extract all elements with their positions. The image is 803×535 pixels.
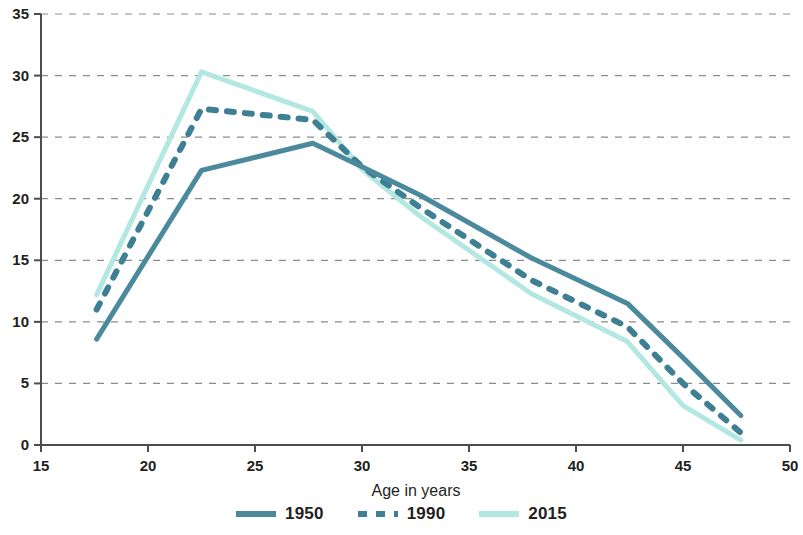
legend-swatch-2015-icon <box>479 511 519 517</box>
data-series-layer <box>97 72 741 440</box>
x-tick-label: 35 <box>461 457 478 474</box>
x-axis-ticks: 1520253035404550 <box>33 445 799 474</box>
y-tick-label: 10 <box>12 313 29 330</box>
x-tick-label: 50 <box>782 457 799 474</box>
y-tick-label: 5 <box>21 374 29 391</box>
y-tick-label: 25 <box>12 128 29 145</box>
series-line-1990 <box>97 109 741 433</box>
series-line-1950 <box>97 143 741 415</box>
x-tick-label: 45 <box>675 457 692 474</box>
line-chart: 05101520253035 1520253035404550 Age in y… <box>0 0 803 535</box>
chart-canvas: 05101520253035 1520253035404550 Age in y… <box>0 0 803 535</box>
x-tick-label: 25 <box>247 457 264 474</box>
x-tick-label: 20 <box>140 457 157 474</box>
y-tick-label: 0 <box>21 436 29 453</box>
chart-legend: 1950 1990 2015 <box>0 505 803 522</box>
x-tick-label: 40 <box>568 457 585 474</box>
legend-item-1990[interactable]: 1990 <box>358 505 446 522</box>
legend-label-1950: 1950 <box>285 505 324 522</box>
y-tick-label: 20 <box>12 190 29 207</box>
legend-swatch-1950-icon <box>236 511 276 517</box>
y-tick-label: 15 <box>12 251 29 268</box>
x-tick-label: 30 <box>354 457 371 474</box>
x-axis-title: Age in years <box>372 482 461 499</box>
y-axis-ticks: 05101520253035 <box>12 5 41 453</box>
legend-item-2015[interactable]: 2015 <box>479 505 567 522</box>
y-tick-label: 30 <box>12 67 29 84</box>
legend-item-1950[interactable]: 1950 <box>236 505 324 522</box>
x-tick-label: 15 <box>33 457 50 474</box>
y-tick-label: 35 <box>12 5 29 22</box>
legend-label-1990: 1990 <box>407 505 446 522</box>
legend-swatch-1990-icon <box>358 511 398 517</box>
legend-label-2015: 2015 <box>528 505 567 522</box>
